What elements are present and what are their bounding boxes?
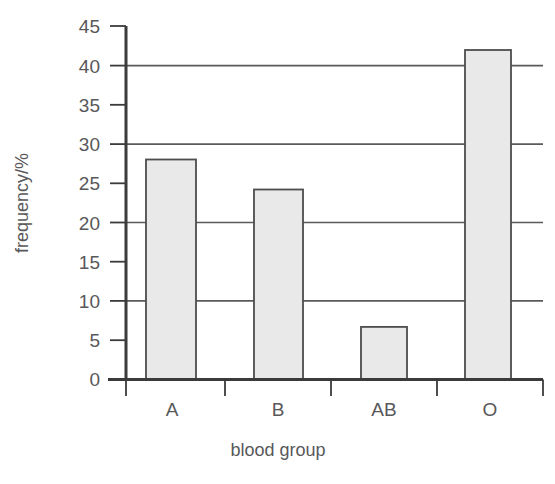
y-axis-title: frequency/% bbox=[12, 153, 32, 253]
category-label-B: B bbox=[272, 399, 285, 420]
y-tick-label-40: 40 bbox=[79, 56, 100, 77]
category-label-AB: AB bbox=[371, 399, 396, 420]
y-tick-label-25: 25 bbox=[79, 173, 100, 194]
y-tick-label-35: 35 bbox=[79, 95, 100, 116]
y-tick-label-30: 30 bbox=[79, 134, 100, 155]
bar-B bbox=[254, 190, 303, 380]
y-tick-label-10: 10 bbox=[79, 291, 100, 312]
y-tick-label-15: 15 bbox=[79, 252, 100, 273]
bar-O bbox=[465, 50, 511, 379]
y-tick-label-20: 20 bbox=[79, 213, 100, 234]
y-tick-label-5: 5 bbox=[89, 330, 100, 351]
bar-AB bbox=[361, 327, 407, 380]
chart-canvas: 45 40 35 30 25 20 15 10 5 0 A B AB O blo bbox=[0, 0, 555, 484]
bar-chart: 45 40 35 30 25 20 15 10 5 0 A B AB O blo bbox=[0, 0, 555, 484]
bar-A bbox=[146, 160, 196, 380]
category-label-O: O bbox=[483, 399, 498, 420]
x-axis-title: blood group bbox=[230, 440, 325, 460]
category-label-A: A bbox=[166, 399, 179, 420]
y-tick-label-0: 0 bbox=[89, 369, 100, 390]
y-tick-label-45: 45 bbox=[79, 16, 100, 37]
